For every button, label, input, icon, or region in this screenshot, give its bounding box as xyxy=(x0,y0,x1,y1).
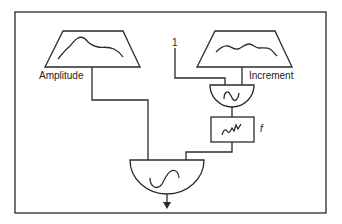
filter-block xyxy=(211,117,254,142)
amplitude-envelope-curve-icon xyxy=(58,37,123,59)
filter-label: f xyxy=(260,123,264,134)
noise-wave-icon xyxy=(222,124,241,135)
output-arrow-icon xyxy=(163,194,171,209)
amplitude-trapezoid xyxy=(45,31,140,67)
amplitude-envelope xyxy=(45,31,140,67)
increment-envelope-curve-icon xyxy=(216,44,277,56)
output-oscillator xyxy=(130,160,204,194)
modulating-oscillator xyxy=(210,85,254,107)
increment-envelope xyxy=(197,31,292,67)
diagram-canvas: Amplitude Increment 1 f xyxy=(0,0,342,224)
amplitude-to-output-line xyxy=(92,67,148,160)
amplitude-label: Amplitude xyxy=(39,70,84,81)
filter-to-output-line xyxy=(186,142,232,160)
increment-label: Increment xyxy=(249,70,294,81)
outer-frame xyxy=(15,12,326,213)
increment-trapezoid xyxy=(197,31,292,67)
constant-one-label: 1 xyxy=(172,37,178,48)
modulating-oscillator-shape xyxy=(210,85,254,107)
output-oscillator-shape xyxy=(130,160,204,194)
sine-wave-icon xyxy=(150,170,179,187)
sine-wave-icon xyxy=(224,92,239,101)
